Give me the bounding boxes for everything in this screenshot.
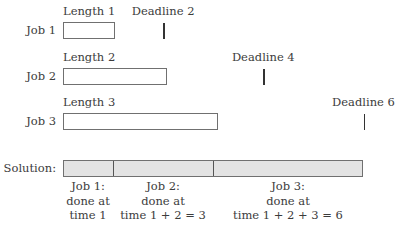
caption-line: time 1 + 2 = 3 — [103, 208, 223, 223]
scheduling-diagram: Job 1 Length 1 Deadline 2 Job 2 Length 2… — [0, 0, 404, 230]
job-length-box — [63, 22, 115, 39]
length-label: Length 3 — [63, 96, 115, 109]
segment-caption-job-2: Job 2: done at time 1 + 2 = 3 — [103, 179, 223, 223]
job-label: Job 3 — [0, 115, 56, 128]
solution-label: Solution: — [0, 162, 56, 175]
deadline-label: Deadline 6 — [332, 96, 395, 109]
caption-line: time 1 + 2 + 3 = 6 — [228, 208, 348, 223]
caption-line: done at — [228, 194, 348, 209]
caption-line: Job 2: — [103, 179, 223, 194]
caption-line: done at — [103, 194, 223, 209]
solution-bar — [63, 160, 363, 177]
solution-segment-job-2 — [114, 161, 214, 176]
job-length-box — [63, 68, 167, 85]
solution-segment-job-1 — [64, 161, 114, 176]
caption-line: Job 3: — [228, 179, 348, 194]
job-length-box — [63, 113, 218, 130]
deadline-marker — [364, 114, 366, 130]
job-label: Job 2 — [0, 70, 56, 83]
deadline-marker — [163, 23, 165, 39]
length-label: Length 1 — [63, 5, 115, 18]
job-label: Job 1 — [0, 24, 56, 37]
solution-segment-job-3 — [214, 161, 364, 176]
length-label: Length 2 — [63, 51, 115, 64]
deadline-marker — [263, 69, 265, 85]
segment-caption-job-3: Job 3: done at time 1 + 2 + 3 = 6 — [228, 179, 348, 223]
deadline-label: Deadline 2 — [132, 5, 195, 18]
deadline-label: Deadline 4 — [232, 51, 295, 64]
